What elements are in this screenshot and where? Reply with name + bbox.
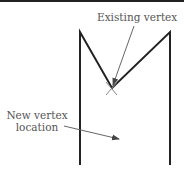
existing-vertex-label: Existing vertex [97,11,177,23]
new-vertex-label-line2: location [16,121,59,133]
new-vertex-arrow [64,126,119,139]
new-vertex-label-line1: New vertex [6,109,67,121]
vertex-diagram: Existing vertex New vertex location [0,0,184,176]
vertex-x-marker [106,82,117,95]
